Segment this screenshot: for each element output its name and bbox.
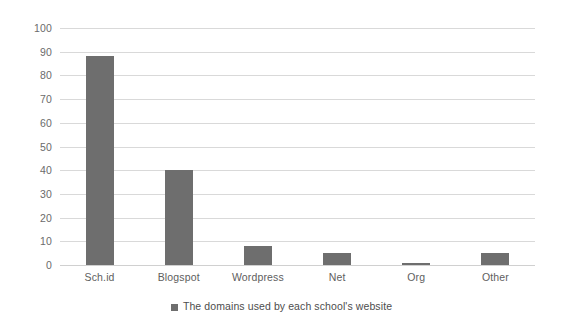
bar-sch-id	[86, 56, 114, 265]
gridline	[60, 28, 535, 29]
gridline	[60, 147, 535, 148]
y-tick-label: 100	[0, 23, 52, 34]
plot-area	[60, 28, 535, 265]
gridline	[60, 52, 535, 53]
gridline	[60, 123, 535, 124]
chart-legend: The domains used by each school's websit…	[0, 300, 563, 313]
gridline	[60, 99, 535, 100]
gridline	[60, 75, 535, 76]
y-tick-label: 90	[0, 46, 52, 57]
bar-other	[481, 253, 509, 265]
gridline	[60, 218, 535, 219]
bar-org	[402, 263, 430, 265]
axis-baseline	[60, 265, 535, 266]
y-axis: 100 90 80 70 60 50 40 30 20 10 0	[0, 28, 52, 265]
y-tick-label: 50	[0, 141, 52, 152]
gridline	[60, 241, 535, 242]
y-tick-label: 60	[0, 118, 52, 129]
y-tick-label: 10	[0, 236, 52, 247]
y-tick-label: 0	[0, 260, 52, 271]
y-tick-label: 80	[0, 70, 52, 81]
x-tick-label-wordpress: Wordpress	[232, 271, 284, 283]
y-tick-label: 40	[0, 165, 52, 176]
bar-chart-figure: 100 90 80 70 60 50 40 30 20 10 0 Sch.id …	[0, 0, 563, 330]
gridline	[60, 194, 535, 195]
legend-label: The domains used by each school's websit…	[183, 300, 392, 313]
x-axis: Sch.id Blogspot Wordpress Net Org Other	[60, 271, 535, 291]
bar-net	[323, 253, 351, 265]
x-tick-label-other: Other	[482, 271, 509, 283]
x-tick-label-sch-id: Sch.id	[85, 271, 115, 283]
y-tick-label: 70	[0, 94, 52, 105]
bar-blogspot	[165, 170, 193, 265]
y-tick-label: 30	[0, 189, 52, 200]
x-tick-label-org: Org	[407, 271, 425, 283]
gridline	[60, 170, 535, 171]
x-tick-label-net: Net	[329, 271, 346, 283]
y-tick-label: 20	[0, 212, 52, 223]
legend-swatch-icon	[171, 304, 178, 311]
bar-wordpress	[244, 246, 272, 265]
x-tick-label-blogspot: Blogspot	[158, 271, 200, 283]
